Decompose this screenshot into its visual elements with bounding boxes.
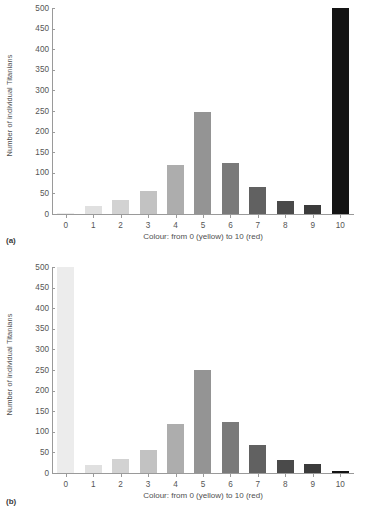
bar: [249, 187, 266, 214]
y-tick-mark: [52, 411, 55, 412]
x-tick-mark: [66, 215, 67, 218]
y-tick: 50: [40, 447, 52, 457]
x-tick-label: 7: [256, 480, 261, 489]
x-tick-mark: [121, 474, 122, 477]
bar-cell: [134, 8, 161, 214]
x-tick-mark: [176, 215, 177, 218]
bar-cell: [162, 267, 189, 473]
y-tick: 400: [35, 44, 52, 54]
x-tick-label: 3: [146, 480, 151, 489]
y-tick-mark: [52, 90, 55, 91]
x-tick: 4: [162, 474, 189, 489]
bar-cell: [79, 267, 106, 473]
bar: [167, 424, 184, 473]
bar-cell: [107, 8, 134, 214]
y-tick: 450: [35, 24, 52, 34]
y-tick: 150: [35, 406, 52, 416]
y-tick: 250: [35, 106, 52, 116]
bar: [140, 191, 157, 214]
x-tick-label: 1: [91, 480, 96, 489]
x-tick: 3: [134, 474, 161, 489]
y-tick: 0: [44, 209, 52, 219]
y-tick-mark: [52, 329, 55, 330]
x-tick: 0: [52, 474, 79, 489]
x-tick-label: 5: [201, 221, 206, 230]
bar-cell: [134, 267, 161, 473]
y-tick-mark: [52, 391, 55, 392]
y-tick: 350: [35, 65, 52, 75]
y-tick-mark: [52, 8, 55, 9]
bar-cell: [327, 8, 354, 214]
x-tick-mark: [285, 474, 286, 477]
y-tick-mark: [52, 452, 55, 453]
y-tick: 100: [35, 427, 52, 437]
bar: [332, 8, 349, 214]
x-tick: 7: [244, 474, 271, 489]
bar: [222, 422, 239, 473]
bar-group-a: [52, 8, 354, 214]
bar-cell: [217, 8, 244, 214]
bar: [85, 465, 102, 473]
bar: [167, 165, 184, 214]
bar-cell: [52, 267, 79, 473]
y-tick-label: 300: [35, 86, 52, 95]
bar-cell: [79, 8, 106, 214]
y-tick-label: 0: [44, 469, 52, 478]
x-tick: 4: [162, 215, 189, 230]
bar-cell: [272, 267, 299, 473]
y-tick: 300: [35, 344, 52, 354]
x-tick-label: 6: [228, 221, 233, 230]
x-tick-mark: [258, 215, 259, 218]
x-tick-label: 3: [146, 221, 151, 230]
y-tick-mark: [52, 49, 55, 50]
y-tick-label: 150: [35, 407, 52, 416]
x-tick: 10: [327, 474, 354, 489]
y-tick-label: 100: [35, 427, 52, 436]
y-tick-label: 200: [35, 127, 52, 136]
x-tick-label: 5: [201, 480, 206, 489]
y-tick-label: 50: [40, 448, 52, 457]
x-tick: 9: [299, 215, 326, 230]
x-tick: 0: [52, 215, 79, 230]
x-tick: 5: [189, 215, 216, 230]
y-tick: 400: [35, 303, 52, 313]
x-tick-label: 4: [173, 221, 178, 230]
bar: [112, 459, 129, 473]
bar: [112, 200, 129, 214]
y-axis-title-a: Number of individual Titanians: [2, 0, 16, 210]
x-tick: 6: [217, 215, 244, 230]
bar-cell: [244, 8, 271, 214]
y-tick-label: 200: [35, 386, 52, 395]
bar: [85, 206, 102, 214]
y-tick: 350: [35, 324, 52, 334]
y-tick-label: 0: [44, 210, 52, 219]
y-tick: 150: [35, 147, 52, 157]
chart-panel-a: Number of individual Titanians 500450400…: [0, 0, 366, 259]
bar: [194, 112, 211, 214]
x-tick-label: 2: [118, 221, 123, 230]
x-tick: 1: [79, 474, 106, 489]
x-tick-mark: [285, 215, 286, 218]
y-tick: 300: [35, 85, 52, 95]
y-tick-mark: [52, 432, 55, 433]
bar-cell: [272, 8, 299, 214]
bar-cell: [244, 267, 271, 473]
x-tick: 8: [272, 474, 299, 489]
x-tick: 1: [79, 215, 106, 230]
y-tick-label: 450: [35, 283, 52, 292]
y-tick-label: 400: [35, 304, 52, 313]
bar-cell: [107, 267, 134, 473]
x-tick: 9: [299, 474, 326, 489]
panel-label-a: (a): [6, 236, 16, 245]
panel-label-b: (b): [6, 497, 16, 506]
y-tick-label: 350: [35, 65, 52, 74]
x-tick-mark: [121, 215, 122, 218]
bar: [304, 464, 321, 473]
y-tick-label: 500: [35, 4, 52, 13]
y-tick-label: 50: [40, 189, 52, 198]
y-tick-label: 150: [35, 148, 52, 157]
x-tick-label: 0: [63, 480, 68, 489]
bar: [222, 163, 239, 214]
bar: [304, 205, 321, 214]
x-tick: 2: [107, 215, 134, 230]
